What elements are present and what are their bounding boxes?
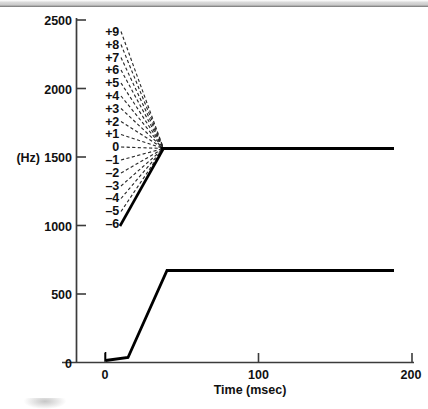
fan-labels: +9 +8 +7 +6 +5 +4 +3 +2 +1 0 –1 –2 –3 –4… xyxy=(105,25,119,231)
scan-artifact-bottom-smudge xyxy=(24,398,66,409)
formant-transition-figure: 2500 2000 1500 1000 500 0 (Hz) 0 100 200… xyxy=(0,0,428,409)
y-axis-unit-label: (Hz) xyxy=(16,151,40,165)
f2-line-minus4 xyxy=(121,149,164,199)
y-tick-label-500: 500 xyxy=(51,288,72,302)
f2-line-zero xyxy=(121,147,164,149)
f2-line-minus3 xyxy=(121,149,164,187)
y-tick-labels: 2500 2000 1500 1000 500 0 xyxy=(44,14,72,371)
y-tick-label-1500: 1500 xyxy=(44,151,72,165)
y-tick-label-1000: 1000 xyxy=(44,220,72,234)
x-tick-label-0: 0 xyxy=(102,368,109,382)
x-tick-label-100: 100 xyxy=(248,368,269,382)
f2-line-plus8 xyxy=(121,45,164,149)
x-axis-title: Time (msec) xyxy=(214,383,287,397)
y-tick-label-2000: 2000 xyxy=(44,83,72,97)
f2-line-minus6 xyxy=(120,149,164,227)
y-tick-label-2500: 2500 xyxy=(44,14,72,28)
f2-line-plus5 xyxy=(121,83,164,149)
chart-canvas: 2500 2000 1500 1000 500 0 (Hz) 0 100 200… xyxy=(0,0,428,409)
x-tick-label-200: 200 xyxy=(401,368,422,382)
f1-trace xyxy=(106,271,395,361)
fan-label-minus6: –6 xyxy=(105,217,119,231)
f2-line-plus3 xyxy=(121,109,164,149)
y-tick-label-0: 0 xyxy=(65,357,72,371)
x-tick-labels: 0 100 200 xyxy=(102,368,422,382)
f2-fan-lines xyxy=(120,32,164,227)
f2-line-plus9 xyxy=(121,32,164,149)
